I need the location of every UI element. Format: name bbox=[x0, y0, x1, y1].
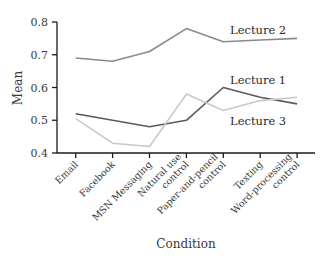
y-axis-title: Mean bbox=[11, 71, 25, 106]
y-tick-label: 0.4 bbox=[31, 147, 49, 160]
series-label: Lecture 1 bbox=[230, 73, 286, 87]
y-tick-label: 0.6 bbox=[31, 82, 49, 95]
x-tick-label: Natural usecontrol bbox=[135, 151, 191, 207]
series-label: Lecture 3 bbox=[230, 114, 286, 128]
x-axis: EmailFacebookMSN MessagingNatural usecon… bbox=[53, 151, 315, 224]
x-tick-label: Email bbox=[53, 159, 80, 186]
y-tick-label: 0.8 bbox=[31, 16, 49, 29]
series-lines bbox=[76, 29, 297, 147]
y-tick-label: 0.7 bbox=[31, 49, 49, 62]
y-axis: 0.40.50.60.70.8 bbox=[31, 16, 58, 160]
series-label: Lecture 2 bbox=[230, 23, 286, 37]
y-tick-label: 0.5 bbox=[31, 114, 49, 127]
line-chart: 0.40.50.60.70.8 EmailFacebookMSN Messagi… bbox=[0, 0, 332, 261]
x-axis-title: Condition bbox=[156, 237, 216, 251]
svg-text:Email: Email bbox=[53, 159, 80, 186]
